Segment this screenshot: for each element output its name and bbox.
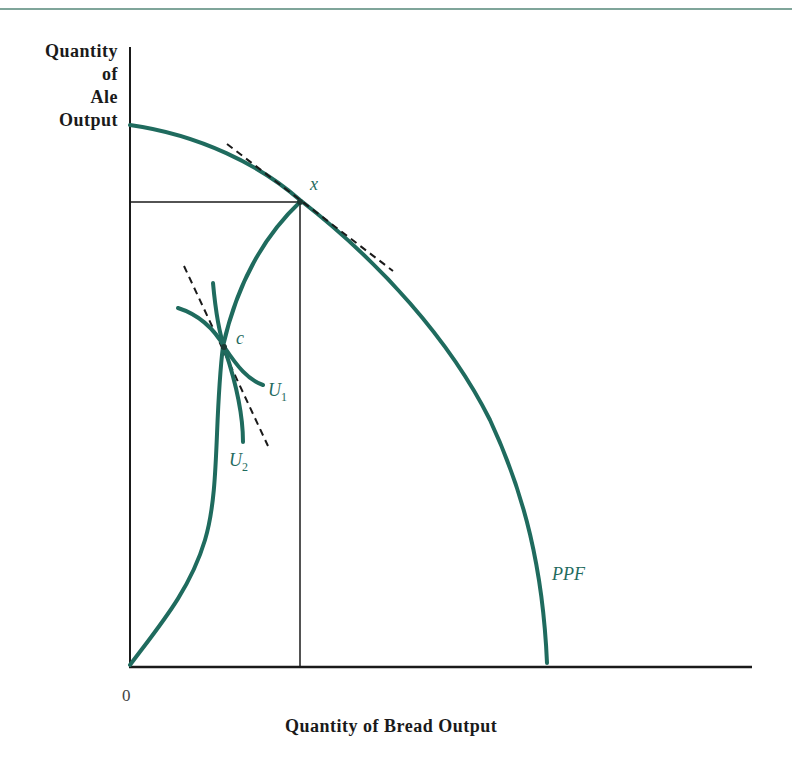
- y-label-line-3: Ale: [45, 86, 118, 109]
- diagram-canvas: [0, 0, 792, 763]
- y-label-line-2: of: [45, 63, 118, 86]
- y-axis-label: Quantity of Ale Output: [45, 40, 118, 132]
- origin-label: 0: [122, 686, 131, 706]
- point-x-marker: [297, 199, 303, 205]
- u2-letter: U: [229, 450, 242, 470]
- point-c-marker: [221, 344, 227, 350]
- y-label-line-1: Quantity: [45, 40, 118, 63]
- point-x-label: x: [310, 174, 318, 195]
- ppf-curve: [130, 125, 547, 663]
- point-c-label: c: [236, 328, 244, 349]
- u1-label: U1: [268, 380, 287, 405]
- x-axis-label: Quantity of Bread Output: [285, 716, 497, 737]
- ppf-label: PPF: [552, 564, 585, 585]
- u1-subscript: 1: [281, 390, 287, 404]
- u2-label: U2: [229, 450, 248, 475]
- u1-letter: U: [268, 380, 281, 400]
- trade-path-curve: [130, 202, 300, 665]
- y-label-line-4: Output: [45, 109, 118, 132]
- u2-subscript: 2: [242, 460, 248, 474]
